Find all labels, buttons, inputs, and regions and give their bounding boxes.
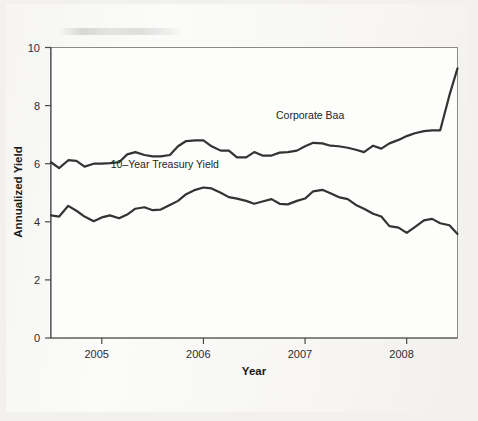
annotation-treasury-yield: 10–Year Treasury Yield (111, 158, 219, 170)
y-tick-label-6: 6 (34, 158, 40, 170)
y-tick-label-8: 8 (34, 100, 40, 112)
x-tick-label-2008: 2008 (389, 348, 413, 360)
y-tick-label-10: 10 (28, 42, 40, 54)
x-axis-tick-marks (102, 338, 407, 344)
x-axis-tick-labels: 2005200620072008 (84, 348, 413, 360)
y-axis-tick-labels: 0246810 (28, 42, 40, 345)
x-tick-label-2006: 2006 (186, 348, 210, 360)
y-axis-title: Annualized Yield (12, 146, 24, 237)
figure-canvas: 0246810 2005200620072008 Corporate Baa10… (0, 0, 478, 421)
y-tick-label-2: 2 (34, 274, 40, 286)
plot-area-frame (51, 48, 458, 339)
annotation-corporate-baa: Corporate Baa (276, 109, 344, 121)
y-tick-label-0: 0 (34, 332, 40, 344)
x-tick-label-2007: 2007 (288, 348, 312, 360)
x-tick-label-2005: 2005 (84, 348, 108, 360)
line-chart: 0246810 2005200620072008 Corporate Baa10… (0, 0, 478, 421)
y-tick-label-4: 4 (34, 216, 40, 228)
x-axis-title: Year (242, 365, 267, 377)
